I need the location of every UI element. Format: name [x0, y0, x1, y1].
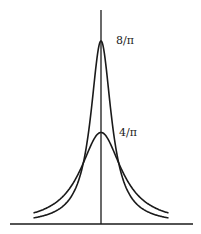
peak-label-high: 8/π	[116, 34, 134, 47]
lorentzian-chart	[0, 0, 201, 234]
peak-label-low: 4/π	[119, 126, 137, 139]
